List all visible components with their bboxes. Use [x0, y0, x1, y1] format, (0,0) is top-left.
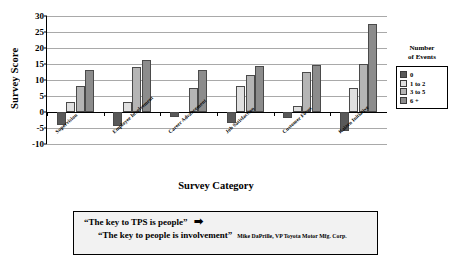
legend-item: 1 to 2 — [400, 80, 444, 87]
bar — [368, 24, 377, 112]
quote-box: “The key to TPS is people” ➡ “The key to… — [73, 211, 378, 255]
x-axis-title: Survey Category — [46, 180, 386, 191]
y-tick-label: 20 — [35, 43, 44, 53]
y-tick-label: 25 — [35, 27, 44, 37]
legend-item: 3 to 5 — [400, 88, 444, 95]
quote-attribution: Mike DaPrille, VP Toyota Motor Mfg. Corp… — [237, 233, 346, 239]
category-label: Kaizen Initiative — [337, 104, 370, 134]
category-label: Career Advancement — [167, 97, 207, 134]
legend-label: 6 + — [410, 97, 419, 104]
legend: Number of Events 01 to 23 to 56 + — [396, 44, 448, 109]
legend-label: 3 to 5 — [410, 88, 425, 95]
y-tick-label: -5 — [37, 123, 45, 133]
quote-line-2: “The key to people is involvement” Mike … — [98, 230, 371, 240]
legend-swatch-icon — [400, 80, 407, 87]
category-label: Supervision — [54, 112, 78, 135]
legend-swatch-icon — [400, 71, 407, 78]
quote-text-involvement: “The key to people is involvement” — [98, 230, 232, 240]
category-label: Customer Focus — [281, 105, 313, 135]
legend-swatch-icon — [400, 88, 407, 95]
y-tick-label: 5 — [40, 91, 45, 101]
y-tick-label: -10 — [32, 139, 44, 149]
y-tick-label: 0 — [40, 107, 45, 117]
legend-item: 0 — [400, 71, 444, 78]
category-label: Job Satisfaction — [224, 105, 255, 134]
right-arrow-icon: ➡ — [194, 216, 203, 227]
legend-swatch-icon — [400, 97, 407, 104]
y-tick-label: 30 — [35, 11, 44, 21]
y-tick-label: 10 — [35, 75, 44, 85]
legend-label: 0 — [410, 71, 413, 78]
quote-line-1: “The key to TPS is people” ➡ — [84, 216, 371, 227]
y-axis-title: Survey Score — [4, 18, 24, 138]
legend-title-line2: of Events — [396, 53, 448, 62]
bar-chart: Survey Score -10-5051015202530 Supervisi… — [0, 0, 451, 200]
quote-text-tps: “The key to TPS is people” — [84, 217, 188, 227]
legend-title-line1: Number — [396, 44, 448, 53]
legend-title: Number of Events — [396, 44, 448, 62]
legend-items: 01 to 23 to 56 + — [396, 66, 448, 110]
legend-item: 6 + — [400, 97, 444, 104]
legend-label: 1 to 2 — [410, 80, 425, 87]
y-tick-label: 15 — [35, 59, 44, 69]
category-labels: SupervisionEmployee InvolvementCareer Ad… — [46, 102, 386, 182]
